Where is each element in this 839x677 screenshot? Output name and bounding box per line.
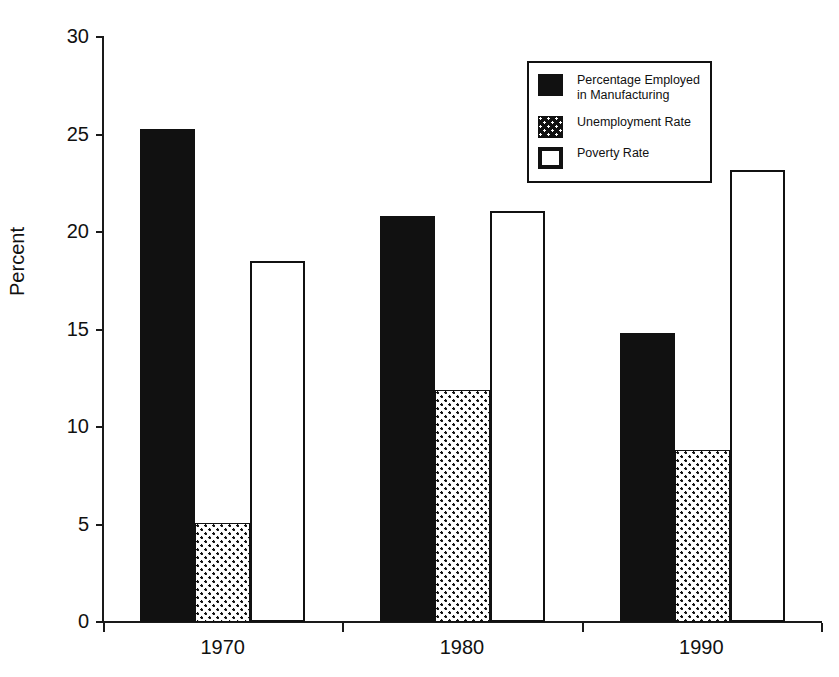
y-tick-mark xyxy=(96,36,104,38)
y-axis-title: Percent xyxy=(6,227,29,296)
y-tick-mark xyxy=(96,231,104,233)
y-tick-label: 20 xyxy=(49,221,89,241)
bar xyxy=(140,129,195,622)
legend-item-poverty: Poverty Rate xyxy=(538,146,649,169)
y-tick-label: 0 xyxy=(49,611,89,631)
legend-label-unemployment: Unemployment Rate xyxy=(577,115,691,130)
bar xyxy=(195,523,250,622)
x-tick-mark xyxy=(582,623,584,632)
y-tick-mark xyxy=(96,524,104,526)
y-tick-label: 25 xyxy=(49,124,89,144)
y-tick-mark xyxy=(96,329,104,331)
plot-area xyxy=(103,37,821,622)
bar xyxy=(730,170,785,622)
y-tick-label: 30 xyxy=(49,26,89,46)
x-tick-label: 1980 xyxy=(402,636,522,659)
legend-item-unemployment: Unemployment Rate xyxy=(538,115,691,138)
x-tick-mark xyxy=(342,623,344,632)
bar xyxy=(435,390,490,622)
legend-label-poverty: Poverty Rate xyxy=(577,146,649,161)
x-tick-mark xyxy=(821,623,823,632)
y-tick-label: 15 xyxy=(49,319,89,339)
solid-black-swatch xyxy=(538,74,563,96)
chart-legend: Percentage Employed in Manufacturing Une… xyxy=(527,61,712,183)
bar xyxy=(250,261,305,622)
y-tick-mark xyxy=(96,426,104,428)
y-tick-label: 5 xyxy=(49,514,89,534)
x-tick-label: 1990 xyxy=(641,636,761,659)
x-tick-label: 1970 xyxy=(163,636,283,659)
bar xyxy=(490,211,545,622)
bar xyxy=(675,450,730,622)
legend-item-manufacturing: Percentage Employed in Manufacturing xyxy=(538,73,700,102)
y-tick-mark xyxy=(96,134,104,136)
y-tick-label: 10 xyxy=(49,416,89,436)
checkered-swatch xyxy=(538,116,563,138)
x-tick-mark xyxy=(103,623,105,632)
legend-label-manufacturing: Percentage Employed in Manufacturing xyxy=(577,73,700,102)
bar xyxy=(620,333,675,622)
chart-page: Percent 051015202530 197019801990 Percen… xyxy=(0,0,839,677)
bar xyxy=(380,216,435,622)
hollow-swatch xyxy=(538,147,563,169)
